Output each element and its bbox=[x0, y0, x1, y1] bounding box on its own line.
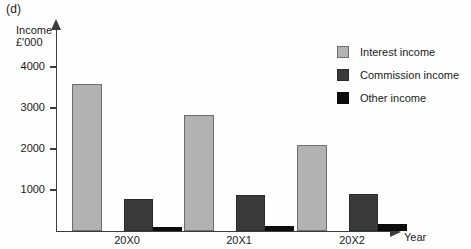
legend-item-interest: Interest income bbox=[337, 40, 459, 63]
x-axis-line bbox=[56, 231, 392, 232]
legend-swatch-interest bbox=[337, 46, 349, 58]
y-axis-title: Income£'000 bbox=[16, 24, 52, 48]
bar-commission-20X2 bbox=[349, 194, 378, 231]
y-axis-title-line2: £'000 bbox=[16, 36, 43, 48]
y-axis-tick bbox=[50, 148, 57, 149]
bar-commission-20X1 bbox=[236, 195, 265, 231]
legend-label-other: Other income bbox=[360, 92, 426, 104]
y-axis-tick bbox=[50, 107, 57, 108]
bar-interest-20X2 bbox=[297, 145, 327, 231]
x-axis-label-20X1: 20X1 bbox=[204, 234, 274, 246]
legend-item-other: Other income bbox=[337, 86, 459, 109]
y-axis-arrow-icon bbox=[51, 19, 61, 30]
y-axis-tick-label: 3000 bbox=[5, 102, 45, 113]
bar-commission-20X0 bbox=[124, 199, 153, 231]
chart-legend: Interest incomeCommission incomeOther in… bbox=[337, 40, 459, 109]
x-axis-label-20X0: 20X0 bbox=[92, 234, 162, 246]
legend-swatch-other bbox=[337, 92, 349, 104]
legend-label-commission: Commission income bbox=[360, 69, 459, 81]
y-axis-tick-label: 2000 bbox=[5, 143, 45, 154]
legend-swatch-commission bbox=[337, 69, 349, 81]
y-axis-tick-label: 1000 bbox=[5, 184, 45, 195]
bar-other-20X1 bbox=[265, 226, 294, 231]
x-axis-title: Year bbox=[404, 231, 426, 243]
y-axis-title-line1: Income bbox=[16, 24, 52, 36]
y-axis-line bbox=[56, 28, 57, 232]
bar-other-20X2 bbox=[378, 224, 407, 231]
y-axis-tick bbox=[50, 66, 57, 67]
bar-other-20X0 bbox=[153, 227, 182, 231]
x-axis-label-20X2: 20X2 bbox=[317, 234, 387, 246]
panel-label: (d) bbox=[6, 2, 21, 16]
bar-interest-20X1 bbox=[184, 115, 214, 231]
legend-item-commission: Commission income bbox=[337, 63, 459, 86]
bar-interest-20X0 bbox=[72, 84, 102, 231]
y-axis-tick-label: 4000 bbox=[5, 61, 45, 72]
y-axis-tick bbox=[50, 189, 57, 190]
legend-label-interest: Interest income bbox=[360, 46, 435, 58]
chart-figure: (d) Income£'000 Year 4000300020001000 20… bbox=[0, 0, 471, 249]
